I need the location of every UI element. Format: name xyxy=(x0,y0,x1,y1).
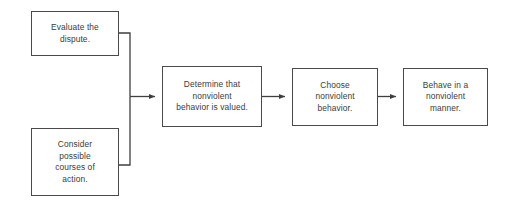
node-label-behave-manner: Behave in a nonviolent manner. xyxy=(419,80,472,115)
node-label-consider-courses: Consider possible courses of action. xyxy=(51,139,99,185)
node-label-determine-valued: Determine that nonviolent behavior is va… xyxy=(172,79,252,114)
connector-evaluate-to-determine xyxy=(119,33,130,97)
node-label-choose-behavior: Choose nonviolent behavior. xyxy=(311,80,358,115)
connector-consider-to-determine xyxy=(119,97,130,166)
node-label-evaluate-dispute: Evaluate the dispute. xyxy=(47,22,103,45)
node-behave-manner: Behave in a nonviolent manner. xyxy=(403,68,488,126)
node-determine-valued: Determine that nonviolent behavior is va… xyxy=(162,66,262,127)
node-choose-behavior: Choose nonviolent behavior. xyxy=(292,68,378,126)
node-consider-courses: Consider possible courses of action. xyxy=(31,128,119,196)
node-evaluate-dispute: Evaluate the dispute. xyxy=(31,11,119,56)
flowchart-diagram: Evaluate the dispute. Consider possible … xyxy=(0,0,512,211)
